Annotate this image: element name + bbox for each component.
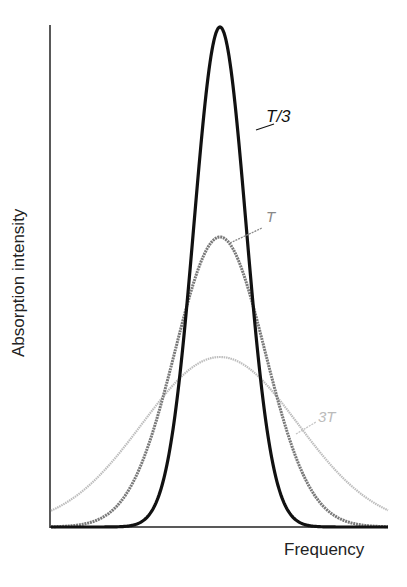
curve-t3 (51, 27, 388, 527)
curve-label-t3: T/3 (266, 107, 291, 127)
y-axis-label: Absorption intensity (9, 209, 29, 357)
curve-3t (51, 357, 388, 511)
x-axis-label: Frequency (284, 540, 364, 560)
curve-t (51, 237, 388, 527)
leader-3t (296, 422, 316, 434)
curve-label-3t: 3T (318, 408, 336, 425)
curve-label-t: T (266, 208, 275, 225)
absorption-chart (0, 0, 407, 587)
